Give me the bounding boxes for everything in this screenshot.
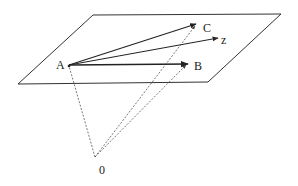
dashed-line-o-to-a [69,66,95,157]
plane-parallelogram [18,14,281,84]
label-c: C [203,21,211,35]
vector-a-to-b [69,64,188,65]
label-b: B [194,59,202,73]
point-a-dot [68,65,71,68]
label-origin: 0 [99,163,105,177]
vector-a-to-c [69,24,196,65]
dashed-line-o-to-b [95,65,186,157]
label-a: A [56,58,65,72]
vector-plane-diagram: A B C z 0 [0,0,298,186]
label-z: z [221,33,226,47]
dashed-line-o-to-c [95,26,195,157]
